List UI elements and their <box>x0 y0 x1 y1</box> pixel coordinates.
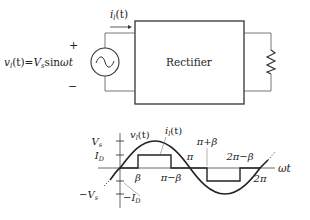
ytick-neg-id: −ID <box>123 192 141 205</box>
xmark-2pi: 2π <box>253 173 267 184</box>
source-top-wire <box>105 33 135 48</box>
rectifier-label: Rectifier <box>166 56 213 68</box>
waveform-current-label: il(t) <box>165 125 182 138</box>
current-label: il(t) <box>110 8 128 22</box>
source-voltage-label: vl(t)=Vssinωt <box>4 56 74 70</box>
arrowhead-icon <box>128 25 132 29</box>
sine-dotted-extension-right <box>268 151 276 160</box>
xmark-pi-plus-beta: π+β <box>196 136 218 147</box>
ytick-id: ID <box>94 150 105 163</box>
x-axis-label: ωt <box>278 162 292 174</box>
rectifier-diagram: + − vl(t)=Vssinωt il(t) Rectifier vl(t) <box>0 0 310 220</box>
sine-dotted-extension <box>104 180 110 186</box>
current-label-leader <box>160 137 166 155</box>
xmark-2pi-minus-beta: 2π−β <box>225 151 253 162</box>
ytick-vs: Vs <box>91 136 102 149</box>
minus-sign: − <box>68 80 77 93</box>
xmark-pi: π <box>186 151 194 162</box>
sine-glyph-icon <box>96 57 114 67</box>
plus-sign: + <box>69 39 78 52</box>
xmark-pi-minus-beta: π−β <box>160 172 182 183</box>
waveform-voltage-label: vl(t) <box>130 129 150 142</box>
source-bottom-wire <box>105 76 135 91</box>
ytick-neg-vs: −Vs <box>79 189 99 202</box>
resistor-icon <box>267 50 275 74</box>
load-bottom-wire <box>244 74 271 91</box>
load-top-wire <box>244 33 271 50</box>
xmark-beta: β <box>134 172 141 183</box>
